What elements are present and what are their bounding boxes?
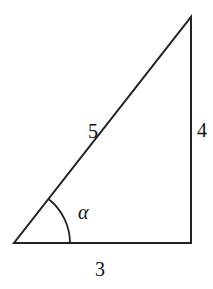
hypotenuse-label: 5: [88, 120, 98, 142]
angle-arc: [49, 199, 71, 243]
right-triangle: [14, 17, 191, 243]
base-label: 3: [95, 258, 105, 280]
angle-alpha-label: α: [78, 201, 89, 223]
triangle-diagram: 5 4 3 α: [0, 0, 213, 289]
vertical-side-label: 4: [197, 119, 207, 141]
